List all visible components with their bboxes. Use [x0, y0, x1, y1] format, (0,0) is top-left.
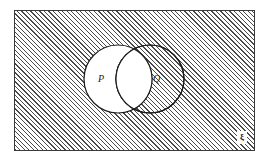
set-label-q: Q: [153, 74, 160, 84]
venn-diagram-figure: P Q ξ: [0, 0, 268, 163]
universal-set-rectangle: [14, 10, 255, 151]
set-label-p: P: [98, 74, 104, 84]
universal-set-symbol: ξ: [237, 131, 247, 144]
